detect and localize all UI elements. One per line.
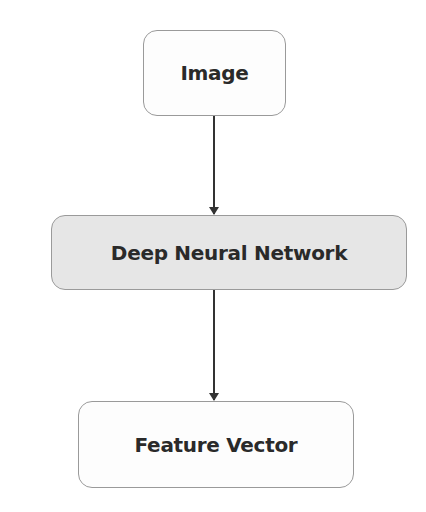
- node-image: Image: [143, 30, 286, 116]
- node-image-label: Image: [180, 61, 248, 85]
- node-feature-vector: Feature Vector: [78, 401, 354, 488]
- node-feature-vector-label: Feature Vector: [135, 433, 298, 457]
- node-dnn-label: Deep Neural Network: [111, 241, 347, 265]
- node-deep-neural-network: Deep Neural Network: [51, 215, 407, 290]
